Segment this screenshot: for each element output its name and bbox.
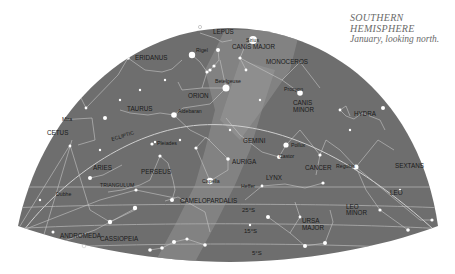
label-mira: Mira	[62, 116, 72, 122]
label-canis-minor-2: MINOR	[293, 106, 314, 113]
label-cetus: CETUS	[47, 129, 68, 136]
label-orion: ORION	[188, 92, 209, 99]
label-auriga: AURIGA	[232, 158, 257, 165]
label-pleiades: Pleiades	[157, 140, 177, 146]
label-aldebaran: Aldebaran	[178, 108, 202, 114]
label-leo: LEO	[390, 189, 403, 196]
label-ursa-major: URSA	[302, 217, 320, 224]
label-gemini: GEMINI	[243, 137, 266, 144]
label-canis-minor: CANIS	[293, 99, 312, 106]
label-castor: Castor	[279, 153, 295, 159]
label-regulus: Regulus	[336, 163, 355, 169]
label-lepus: LEPUS	[213, 28, 234, 35]
label-leo-minor-2: MINOR	[346, 209, 367, 216]
label-lynx: LYNX	[266, 174, 283, 181]
label-monoceros: MONOCEROS	[266, 58, 308, 65]
star-chart: LEPUS CANIS MAJOR ERIDANUS MONOCEROS ORI…	[0, 0, 455, 274]
label-sirius: Sirius	[246, 37, 259, 43]
label-procyon: Procyon	[284, 86, 303, 92]
label-perseus: PERSEUS	[141, 168, 171, 175]
label-camelopardalis: CAMELOPARDALIS	[180, 197, 237, 204]
label-triangulum: TRIANGULUM	[100, 182, 134, 188]
label-rigel: Rigel	[196, 47, 208, 53]
label-pegasus: ANDROMEDA	[60, 232, 102, 239]
label-ursa-major-2: MAJOR	[302, 224, 324, 231]
label-taurus: TAURUS	[127, 105, 152, 112]
label-andromeda: CASSIOPEIA	[100, 235, 139, 242]
label-canis-major: CANIS MAJOR	[232, 43, 275, 50]
label-pollux: Pollux	[291, 142, 306, 148]
label-dubhe: Dubhe	[56, 191, 71, 197]
label-eridanus: ERIDANUS	[135, 54, 168, 61]
label-betelgeuse: Betelgeuse	[215, 78, 241, 84]
label-cancer: CANCER	[305, 164, 332, 171]
label-declination-25s: 25°S	[242, 207, 255, 213]
label-capella: Capella	[202, 178, 220, 184]
label-aries: ARIES	[93, 164, 112, 171]
label-declination-5s: 5°S	[252, 250, 262, 256]
label-declination-15s: 15°S	[244, 228, 257, 234]
label-hydra: HYDRA	[354, 110, 377, 117]
label-star-annotation: Heffer	[241, 183, 255, 189]
label-sextans: SEXTANS	[395, 162, 424, 169]
